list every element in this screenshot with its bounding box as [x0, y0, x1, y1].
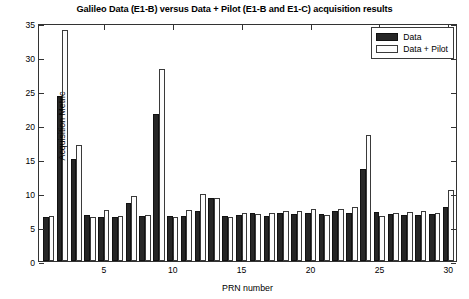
bar-data-pilot — [393, 213, 399, 261]
y-tick-mark — [39, 161, 44, 162]
x-tick-label: 15 — [237, 265, 247, 275]
legend-item-data: Data — [376, 31, 448, 43]
bar-data-pilot — [338, 209, 344, 261]
bar-group — [43, 25, 54, 261]
y-tick-mark — [39, 25, 44, 26]
legend-swatch-data-pilot-icon — [376, 45, 398, 53]
bar-data-pilot — [186, 210, 192, 261]
bar-group — [222, 25, 233, 261]
x-tick-mark-top — [311, 25, 312, 30]
x-axis-label: PRN number — [38, 283, 457, 293]
bar-group — [236, 25, 247, 261]
y-tick-label: 5 — [30, 224, 35, 234]
y-tick-label: 15 — [25, 156, 35, 166]
legend-label-data-pilot: Data + Pilot — [403, 44, 448, 54]
bar-group — [388, 25, 399, 261]
bar-data-pilot — [159, 69, 165, 261]
bar-group — [139, 25, 150, 261]
bar-data-pilot — [49, 216, 55, 261]
chart-legend: Data Data + Pilot — [371, 27, 454, 59]
bar-group — [264, 25, 275, 261]
bar-group — [208, 25, 219, 261]
y-tick-label: 25 — [25, 88, 35, 98]
bar-data-pilot — [118, 216, 124, 261]
bar-group — [71, 25, 82, 261]
bar-group — [195, 25, 206, 261]
y-tick-mark-right — [451, 93, 456, 94]
bar-group — [112, 25, 123, 261]
x-tick-label: 25 — [375, 265, 385, 275]
bar-data-pilot — [421, 211, 427, 261]
legend-label-data: Data — [403, 32, 421, 42]
y-tick-label: 30 — [25, 54, 35, 64]
bar-group — [319, 25, 330, 261]
x-tick-mark-top — [173, 25, 174, 30]
x-tick-mark — [173, 256, 174, 261]
x-tick-mark-top — [104, 25, 105, 30]
bar-data-pilot — [200, 194, 206, 261]
y-tick-mark — [39, 59, 44, 60]
bar-group — [360, 25, 371, 261]
bar-group — [277, 25, 288, 261]
bar-data-pilot — [90, 217, 96, 261]
y-tick-mark-right — [451, 59, 456, 60]
bar-group — [181, 25, 192, 261]
y-tick-label: 0 — [30, 258, 35, 268]
plot-area: 05101520253035 51015202530 Data Data + P… — [38, 24, 457, 262]
bar-data-pilot — [311, 209, 317, 261]
x-tick-mark — [448, 256, 449, 261]
chart-title: Galileo Data (E1-B) versus Data + Pilot … — [0, 4, 469, 14]
y-tick-mark — [39, 127, 44, 128]
y-tick-mark — [39, 195, 44, 196]
legend-swatch-data-icon — [376, 33, 398, 41]
bar-data-pilot — [407, 212, 413, 261]
bar-group — [84, 25, 95, 261]
y-tick-mark-right — [451, 127, 456, 128]
bar-data-pilot — [145, 215, 151, 261]
bar-data-pilot — [352, 207, 358, 261]
y-tick-mark — [39, 229, 44, 230]
x-tick-label: 5 — [101, 265, 106, 275]
bar-group — [167, 25, 178, 261]
bar-data-pilot — [104, 210, 110, 261]
bar-group — [429, 25, 440, 261]
bar-group — [153, 25, 164, 261]
y-tick-label: 10 — [25, 190, 35, 200]
y-axis-label: Acquisition Metric — [57, 51, 67, 201]
bar-data-pilot — [242, 213, 248, 261]
bars-layer — [39, 25, 456, 261]
y-tick-mark-right — [451, 25, 456, 26]
bar-group — [443, 25, 454, 261]
bar-data-pilot — [255, 214, 261, 261]
bar-data-pilot — [366, 135, 372, 261]
bar-group — [332, 25, 343, 261]
bar-data-pilot — [214, 198, 220, 261]
bar-data-pilot — [173, 217, 179, 261]
y-tick-mark-right — [451, 161, 456, 162]
bar-group — [250, 25, 261, 261]
x-tick-mark-top — [242, 25, 243, 30]
bar-data-pilot — [131, 196, 137, 261]
legend-item-data-pilot: Data + Pilot — [376, 43, 448, 55]
x-tick-mark — [311, 256, 312, 261]
bar-data-pilot — [269, 213, 275, 261]
bar-data-pilot — [297, 211, 303, 261]
bar-data-pilot — [435, 213, 441, 261]
bar-data-pilot — [283, 211, 289, 261]
bar-group — [415, 25, 426, 261]
bar-group — [98, 25, 109, 261]
bar-data-pilot — [448, 190, 454, 261]
y-tick-mark-right — [451, 195, 456, 196]
x-tick-label: 10 — [168, 265, 178, 275]
bar-data-pilot — [324, 215, 330, 261]
x-tick-mark — [242, 256, 243, 261]
bar-group — [401, 25, 412, 261]
y-tick-label: 20 — [25, 122, 35, 132]
x-tick-label: 20 — [306, 265, 316, 275]
bar-data-pilot — [228, 217, 234, 261]
bar-group — [305, 25, 316, 261]
bar-group — [291, 25, 302, 261]
bar-data-pilot — [379, 216, 385, 261]
y-tick-mark-right — [451, 263, 456, 264]
bar-data-pilot — [76, 145, 82, 261]
